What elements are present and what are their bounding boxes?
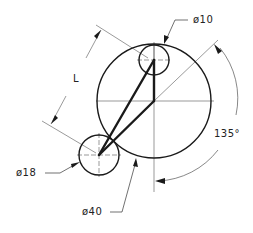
drawing-canvas: ø10 L 135° ø18 ø40 (0, 0, 253, 233)
length-L-label: L (73, 74, 79, 84)
angle-135-label: 135° (214, 129, 240, 139)
angle-arc (158, 48, 238, 181)
angle-arrows (155, 44, 222, 184)
leaders (45, 20, 188, 212)
diameter-40-label: ø40 (82, 207, 102, 217)
diameter-18-label: ø18 (16, 168, 36, 178)
diameter-10-label: ø10 (193, 15, 213, 25)
technical-drawing (0, 0, 253, 233)
linkage-lines (99, 60, 154, 155)
dimension-L-extension-lines (42, 25, 148, 153)
